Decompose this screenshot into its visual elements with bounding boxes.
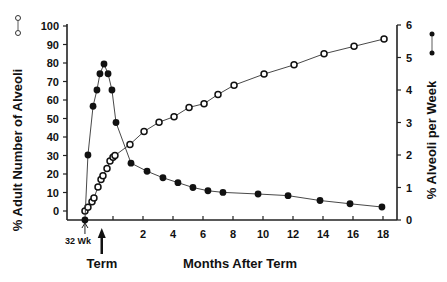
y-right-tick-label: 5 xyxy=(406,52,412,64)
y-right-tick-label: 4 xyxy=(406,84,413,96)
data-point-open xyxy=(127,141,133,147)
y-left-tick-label: 20 xyxy=(47,168,59,180)
x-tick-label: 4 xyxy=(170,228,177,240)
data-point-filled xyxy=(144,168,151,175)
data-point-open xyxy=(104,165,110,171)
x-tick-label: 8 xyxy=(230,228,236,240)
data-point-open xyxy=(261,71,267,77)
data-point-filled xyxy=(90,103,97,110)
data-point-open xyxy=(100,173,106,179)
y-right-tick-label: 2 xyxy=(406,149,412,161)
data-point-filled xyxy=(160,174,167,181)
y-right-tick-label: 0 xyxy=(406,214,412,226)
y-left-tick-label: 100 xyxy=(41,20,59,32)
start-annotation: 32 Wk xyxy=(65,236,92,246)
data-point-open xyxy=(186,104,192,110)
data-point-open xyxy=(291,62,297,68)
data-point-open xyxy=(381,36,387,42)
y-left-tick-label: 60 xyxy=(47,94,59,106)
y-axis-left-title: % Adult Number of Alveoli xyxy=(10,69,25,231)
data-point-filled xyxy=(220,189,227,196)
x-tick-label: 12 xyxy=(287,228,299,240)
y-left-tick-label: 40 xyxy=(47,131,59,143)
legend-filled-circle-symbol xyxy=(430,32,435,56)
chart: 0102030405060708090100012345624681012141… xyxy=(0,0,447,282)
data-point-open xyxy=(171,114,177,120)
y-left-tick-label: 0 xyxy=(53,205,59,217)
data-point-filled xyxy=(255,191,262,198)
legend-open-circle-symbol xyxy=(16,16,21,36)
data-point-filled xyxy=(82,217,89,224)
x-tick-label: 14 xyxy=(317,228,330,240)
legend-filled-circle xyxy=(430,32,435,37)
term-arrow-head xyxy=(98,228,106,238)
legend-open-circle xyxy=(16,31,21,36)
legend-filled-circle xyxy=(430,51,435,56)
axes: 0102030405060708090100012345624681012141… xyxy=(41,19,413,254)
data-point-open xyxy=(321,51,327,57)
y-right-tick-label: 3 xyxy=(406,117,412,129)
data-point-open xyxy=(156,119,162,125)
data-point-filled xyxy=(317,197,324,204)
x-tick-label: 6 xyxy=(200,228,206,240)
y-axis-right-title: % Alveoli per Week xyxy=(424,80,439,199)
y-left-tick-label: 10 xyxy=(47,187,59,199)
x-tick-label: 10 xyxy=(257,228,269,240)
series-adult-number xyxy=(82,36,387,214)
term-annotation: Term xyxy=(87,256,118,271)
data-point-open xyxy=(201,101,207,107)
data-point-filled xyxy=(190,184,197,191)
data-point-open xyxy=(112,153,118,159)
data-point-open xyxy=(91,195,97,201)
y-left-tick-label: 80 xyxy=(47,57,59,69)
data-point-filled xyxy=(128,160,135,167)
data-point-filled xyxy=(94,87,101,94)
legend-open-circle xyxy=(16,16,21,21)
data-point-filled xyxy=(175,179,182,186)
data-point-open xyxy=(141,128,147,134)
y-left-tick-label: 50 xyxy=(47,113,59,125)
x-tick-label: 2 xyxy=(140,228,146,240)
data-point-filled xyxy=(379,204,386,211)
data-point-open xyxy=(215,91,221,97)
data-point-filled xyxy=(113,119,120,126)
data-point-filled xyxy=(101,61,108,68)
series-adult-number-line xyxy=(85,39,384,211)
data-point-filled xyxy=(205,187,212,194)
data-point-filled xyxy=(347,200,354,207)
x-axis-title: Months After Term xyxy=(183,256,297,271)
data-point-open xyxy=(95,184,101,190)
y-left-tick-label: 90 xyxy=(47,39,59,51)
y-right-tick-label: 6 xyxy=(406,19,412,31)
data-point-filled xyxy=(105,70,112,77)
data-point-filled xyxy=(109,87,116,94)
data-point-open xyxy=(231,82,237,88)
data-point-filled xyxy=(85,152,92,159)
x-tick-label: 18 xyxy=(377,228,389,240)
data-point-filled xyxy=(285,192,292,199)
y-left-tick-label: 70 xyxy=(47,76,59,88)
data-point-open xyxy=(351,43,357,49)
y-left-tick-label: 30 xyxy=(47,150,59,162)
x-tick-label: 16 xyxy=(347,228,359,240)
y-right-tick-label: 1 xyxy=(406,182,412,194)
data-point-filled xyxy=(97,70,104,77)
